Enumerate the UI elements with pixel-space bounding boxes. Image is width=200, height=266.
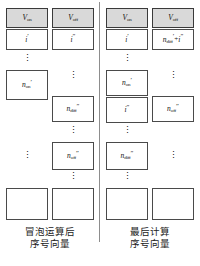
caption-bubble-result: 冒泡运算后 序号向量 [0, 226, 100, 250]
vector-cell: ndiff′+i″ [152, 29, 194, 50]
vector-cell: i″ [106, 97, 148, 123]
vertical-ellipsis: ⋮ [152, 70, 194, 84]
panel-bubble-result: Voni′⋮non′⋮ Voffi″⋮ndiff″⋮noff″⋮ 冒泡运算后 序… [0, 0, 100, 266]
caption-line-1: 最后计算 [100, 226, 200, 238]
vertical-ellipsis: ⋮ [6, 150, 48, 164]
vector-cell: ndiff″ [106, 142, 148, 170]
vector-cell: non′ [6, 70, 48, 100]
vertical-ellipsis: ⋮ [106, 126, 148, 138]
vector-cell-empty [52, 188, 94, 220]
vertical-ellipsis: ⋮ [152, 150, 194, 164]
vertical-ellipsis: ⋮ [52, 70, 94, 84]
vector-cell: non′ [106, 70, 148, 96]
vector-cell-empty [6, 188, 48, 220]
vector-cell: ndiff″ [52, 96, 94, 122]
vertical-ellipsis: ⋮ [106, 172, 148, 184]
vector-cell-empty [152, 188, 194, 220]
column-header-v-on: Von [6, 8, 48, 28]
vector-cell: i′ [106, 29, 148, 50]
figure-index-vectors: Voni′⋮non′⋮ Voffi″⋮ndiff″⋮noff″⋮ 冒泡运算后 序… [0, 0, 200, 266]
caption-line-2: 序号向量 [100, 238, 200, 250]
vertical-ellipsis: ⋮ [106, 53, 148, 67]
column-header-v-on: Von [106, 8, 148, 28]
vertical-ellipsis: ⋮ [52, 126, 94, 138]
vector-cell: i′ [6, 29, 48, 50]
column-header-v-off: Voff [152, 8, 194, 28]
vertical-ellipsis: ⋮ [6, 53, 48, 67]
panel-final-result: Voni′⋮non′i″⋮ndiff″⋮ Voffndiff′+i″⋮noff″… [100, 0, 200, 266]
vector-cell: i″ [52, 29, 94, 50]
column-header-v-off: Voff [52, 8, 94, 28]
caption-line-2: 序号向量 [0, 238, 100, 250]
caption-final-result: 最后计算 序号向量 [100, 226, 200, 250]
vector-cell: noff″ [152, 96, 194, 122]
vector-cell-empty [106, 188, 148, 220]
vector-cell: noff″ [52, 142, 94, 170]
vertical-ellipsis: ⋮ [52, 172, 94, 184]
caption-line-1: 冒泡运算后 [0, 226, 100, 238]
